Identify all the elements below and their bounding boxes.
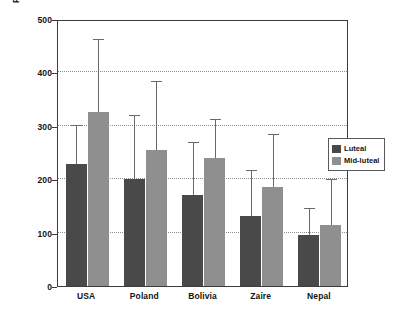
bar-usa-mid-luteal xyxy=(88,112,109,286)
error-cap-bolivia-mid-luteal xyxy=(210,119,221,120)
bar-zaire-mid-luteal xyxy=(262,187,283,286)
y-tick-label-100: 100 xyxy=(12,229,52,239)
bar-usa-luteal xyxy=(66,164,87,286)
y-tick-label-500: 500 xyxy=(12,15,52,25)
error-cap-nepal-mid-luteal xyxy=(326,179,337,180)
legend-swatch-icon-luteal xyxy=(332,145,341,153)
error-bar-usa-mid-luteal xyxy=(98,40,99,112)
bar-nepal-mid-luteal xyxy=(320,225,341,286)
legend-label-luteal: Luteal xyxy=(344,144,366,153)
error-cap-poland-mid-luteal xyxy=(151,81,162,82)
plot-area xyxy=(57,20,348,287)
error-bar-usa-luteal xyxy=(76,126,77,164)
error-bar-poland-mid-luteal xyxy=(156,82,157,150)
error-bar-zaire-luteal xyxy=(251,171,252,215)
error-cap-nepal-luteal xyxy=(304,208,315,209)
bar-nepal-luteal xyxy=(298,235,319,286)
bar-poland-mid-luteal xyxy=(146,150,167,286)
legend-item-mid-luteal: Mid-luteal xyxy=(332,155,380,166)
error-cap-zaire-mid-luteal xyxy=(268,134,279,135)
y-tick-0 xyxy=(52,287,57,288)
error-bar-nepal-mid-luteal xyxy=(331,180,332,224)
bar-bolivia-luteal xyxy=(182,195,203,286)
y-tick-label-300: 300 xyxy=(12,122,52,132)
y-tick-label-400: 400 xyxy=(12,68,52,78)
error-cap-bolivia-luteal xyxy=(188,142,199,143)
error-cap-poland-luteal xyxy=(129,115,140,116)
error-bar-zaire-mid-luteal xyxy=(273,135,274,187)
progesterone-bar-chart: Progesterone (pmol/l) 0100200300400500 U… xyxy=(0,0,420,315)
legend-swatch-icon-mid-luteal xyxy=(332,157,341,165)
error-bar-nepal-luteal xyxy=(309,209,310,236)
legend-item-luteal: Luteal xyxy=(332,143,380,154)
bar-bolivia-mid-luteal xyxy=(204,158,225,286)
y-tick-label-0: 0 xyxy=(12,282,52,292)
error-bar-bolivia-mid-luteal xyxy=(215,120,216,157)
bar-zaire-luteal xyxy=(240,216,261,286)
legend: Luteal Mid-luteal xyxy=(328,138,385,171)
bar-series-layer xyxy=(58,21,347,286)
error-cap-zaire-luteal xyxy=(246,170,257,171)
x-tick-label-nepal: Nepal xyxy=(284,291,354,301)
error-bar-poland-luteal xyxy=(134,116,135,179)
bar-poland-luteal xyxy=(124,179,145,286)
error-cap-usa-mid-luteal xyxy=(93,39,104,40)
error-bar-bolivia-luteal xyxy=(193,143,194,195)
error-cap-usa-luteal xyxy=(71,125,82,126)
legend-label-mid-luteal: Mid-luteal xyxy=(344,156,380,165)
y-axis-title: Progesterone (pmol/l) xyxy=(11,0,25,68)
y-tick-label-200: 200 xyxy=(12,175,52,185)
